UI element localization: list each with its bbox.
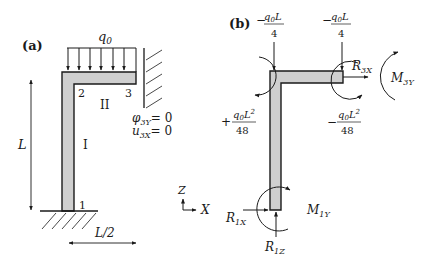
moment-node-2: + q0L2 48	[221, 57, 276, 136]
coordinate-axes: Z X	[177, 184, 210, 217]
force-node-2: − q0L 4	[256, 11, 284, 70]
svg-text:4: 4	[271, 28, 277, 39]
svg-text:M3Y: M3Y	[390, 71, 414, 87]
reaction-r1x: R1X	[225, 210, 268, 227]
width-dimension: L/2	[69, 226, 136, 243]
svg-text:R3X: R3X	[351, 59, 372, 75]
right-wall-support	[144, 48, 162, 108]
svg-text:q0L: q0L	[331, 11, 349, 24]
svg-text:48: 48	[341, 125, 354, 136]
free-body-frame	[270, 71, 343, 210]
structural-diagram: (a) q0	[0, 0, 433, 265]
reaction-m1y: M1Y	[257, 187, 331, 231]
z-axis-label: Z	[177, 184, 186, 197]
height-dimension: L	[17, 80, 31, 210]
svg-text:R1Z: R1Z	[264, 240, 285, 256]
svg-text:M1Y: M1Y	[306, 203, 330, 219]
x-axis-label: X	[200, 203, 210, 217]
reaction-r1z: R1Z	[264, 212, 285, 256]
member-I-label: I	[83, 138, 88, 152]
member-II-label: II	[100, 98, 110, 112]
node-2-label: 2	[78, 87, 85, 100]
load-label: q0	[98, 29, 112, 46]
svg-text:R1X: R1X	[225, 211, 246, 227]
distributed-load: q0	[67, 29, 136, 72]
panel-a: (a) q0	[17, 29, 172, 243]
width-label: L/2	[94, 226, 115, 240]
svg-text:48: 48	[236, 125, 249, 136]
bc-displacement: u3X= 0	[132, 124, 172, 140]
svg-text:q0L2: q0L2	[338, 108, 361, 122]
panel-b: (b) − q0L 4 + q0L2 48 − q0L 4	[221, 11, 414, 256]
height-label: L	[17, 137, 27, 152]
ground-support	[40, 211, 98, 229]
svg-text:4: 4	[338, 28, 344, 39]
svg-text:q0L: q0L	[264, 11, 282, 24]
node-1-label: 1	[79, 199, 86, 212]
panel-a-label: (a)	[22, 38, 43, 53]
reaction-m3y: M3Y	[380, 52, 414, 100]
panel-b-label: (b)	[229, 16, 250, 31]
svg-text:+: +	[221, 115, 231, 129]
node-3-label: 3	[125, 87, 132, 100]
svg-text:−: −	[327, 115, 337, 129]
svg-text:q0L2: q0L2	[233, 108, 256, 122]
